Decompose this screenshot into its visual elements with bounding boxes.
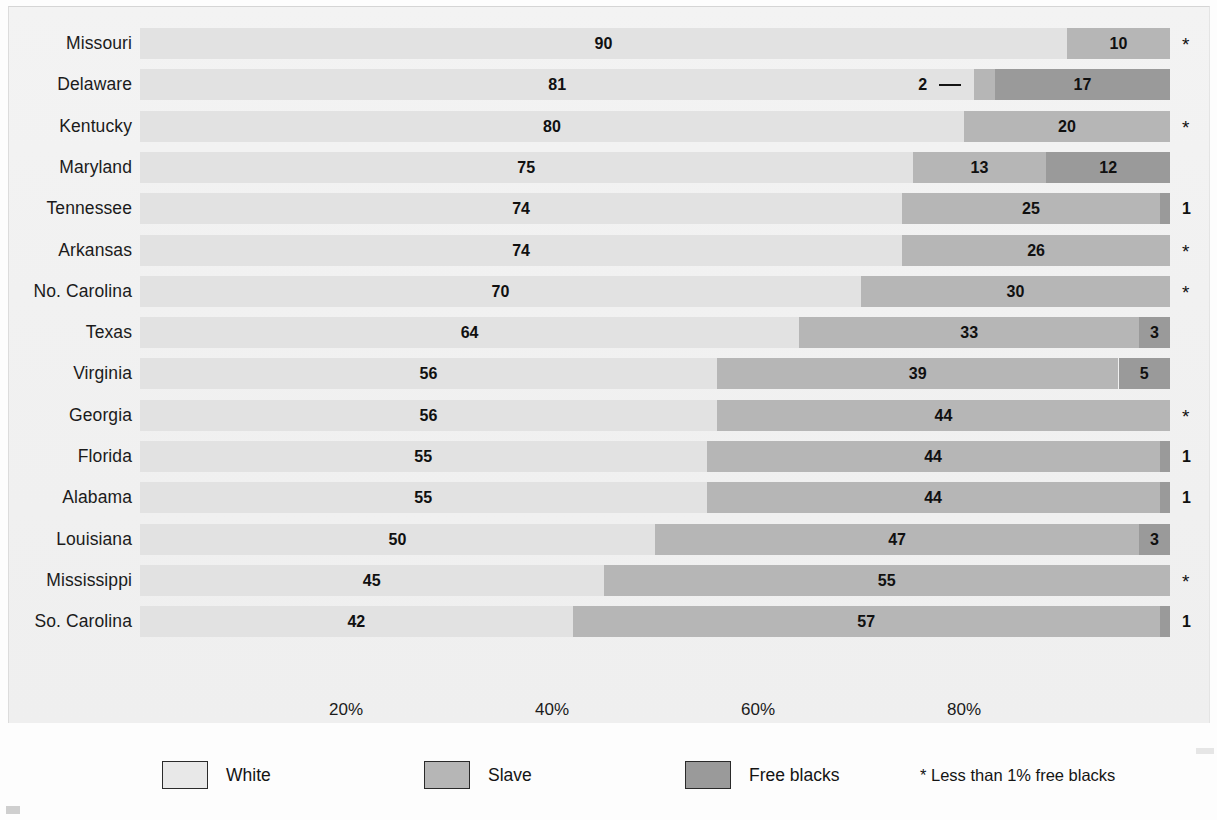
x-tick-label: 40% <box>535 700 569 720</box>
segment-value-slave: 30 <box>861 276 1170 307</box>
x-tick-label: 60% <box>741 700 775 720</box>
row-label-mississippi: Mississippi <box>46 565 132 596</box>
segment-value-white: 70 <box>140 276 861 307</box>
segment-value-slave: 57 <box>573 606 1160 637</box>
stacked-bar-chart: Missouri9010*Delaware81217Kentucky8020*M… <box>0 0 1217 820</box>
segment-value-free: 5 <box>1119 358 1171 389</box>
legend-item-white[interactable]: White <box>162 758 271 792</box>
footnote-asterisk: * <box>1182 111 1189 142</box>
chart-legend: WhiteSlaveFree blacks* Less than 1% free… <box>0 758 1217 804</box>
chart-row: So. Carolina42571 <box>0 606 1217 637</box>
footnote-asterisk: * <box>1182 235 1189 266</box>
chart-row: Texas64333 <box>0 317 1217 348</box>
chart-page: Missouri9010*Delaware81217Kentucky8020*M… <box>0 0 1217 820</box>
legend-item-slave[interactable]: Slave <box>424 758 532 792</box>
chart-row: Louisiana50473 <box>0 524 1217 555</box>
row-label-virginia: Virginia <box>73 358 132 389</box>
stacked-bar: 4257 <box>140 606 1170 637</box>
x-tick-label: 80% <box>947 700 981 720</box>
segment-value-white: 74 <box>140 193 902 224</box>
segment-value-free-outside: 1 <box>1182 193 1191 224</box>
row-label-kentucky: Kentucky <box>59 111 132 142</box>
legend-swatch-icon <box>685 761 731 789</box>
legend-swatch-icon <box>424 761 470 789</box>
stacked-bar: 5644 <box>140 400 1170 431</box>
row-label-missouri: Missouri <box>66 28 132 59</box>
chart-row: Mississippi4555* <box>0 565 1217 596</box>
footnote-asterisk: * <box>1182 276 1189 307</box>
segment-value-slave: 39 <box>717 358 1119 389</box>
segment-value-white: 80 <box>140 111 964 142</box>
stacked-bar: 5544 <box>140 441 1170 472</box>
stacked-bar: 5544 <box>140 482 1170 513</box>
row-label-alabama: Alabama <box>62 482 132 513</box>
x-axis: 20%40%60%80% <box>0 700 1217 730</box>
segment-value-white: 55 <box>140 441 707 472</box>
segment-free-blacks <box>1160 606 1170 637</box>
stacked-bar: 7030 <box>140 276 1170 307</box>
segment-value-free-outside: 1 <box>1182 482 1191 513</box>
row-label-texas: Texas <box>86 317 132 348</box>
stacked-bar: 751312 <box>140 152 1170 183</box>
footnote-asterisk: * <box>1182 565 1189 596</box>
segment-free-blacks <box>1160 482 1170 513</box>
segment-value-free: 3 <box>1139 317 1170 348</box>
segment-value-free-outside: 1 <box>1182 606 1191 637</box>
segment-value-slave: 10 <box>1067 28 1170 59</box>
stacked-bar: 64333 <box>140 317 1170 348</box>
leader-line <box>939 84 961 86</box>
row-label-tennessee: Tennessee <box>46 193 132 224</box>
row-label-delaware: Delaware <box>57 69 132 100</box>
segment-value-white: 55 <box>140 482 707 513</box>
chart-row: Delaware81217 <box>0 69 1217 100</box>
segment-value-slave: 25 <box>902 193 1160 224</box>
segment-value-slave: 47 <box>655 524 1139 555</box>
stacked-bar: 56395 <box>140 358 1170 389</box>
segment-value-slave: 26 <box>902 235 1170 266</box>
row-label-florida: Florida <box>78 441 132 472</box>
x-tick-label: 20% <box>329 700 363 720</box>
legend-footnote: * Less than 1% free blacks <box>920 758 1115 792</box>
stacked-bar: 7426 <box>140 235 1170 266</box>
segment-value-slave: 44 <box>707 482 1160 513</box>
segment-value-free: 3 <box>1139 524 1170 555</box>
scan-artifact <box>1196 748 1214 754</box>
chart-row: Missouri9010* <box>0 28 1217 59</box>
stacked-bar: 81217 <box>140 69 1170 100</box>
segment-value-slave: 33 <box>799 317 1139 348</box>
chart-row: Kentucky8020* <box>0 111 1217 142</box>
segment-value-white: 50 <box>140 524 655 555</box>
stacked-bar: 7425 <box>140 193 1170 224</box>
row-label-georgia: Georgia <box>69 400 132 431</box>
segment-free-blacks <box>1160 441 1170 472</box>
legend-item-free-blacks[interactable]: Free blacks <box>685 758 839 792</box>
chart-row: Tennessee74251 <box>0 193 1217 224</box>
segment-value-free: 17 <box>995 69 1170 100</box>
segment-value-white: 45 <box>140 565 604 596</box>
footnote-asterisk: * <box>1182 400 1189 431</box>
legend-label: Free blacks <box>749 765 839 786</box>
row-label-so-carolina: So. Carolina <box>34 606 132 637</box>
row-label-no-carolina: No. Carolina <box>34 276 132 307</box>
row-label-arkansas: Arkansas <box>58 235 132 266</box>
chart-row: Maryland751312 <box>0 152 1217 183</box>
segment-value-white: 56 <box>140 358 717 389</box>
segment-value-slave: 44 <box>717 400 1170 431</box>
chart-row: No. Carolina7030* <box>0 276 1217 307</box>
segment-value-white: 74 <box>140 235 902 266</box>
stacked-bar: 4555 <box>140 565 1170 596</box>
segment-value-white: 56 <box>140 400 717 431</box>
chart-row: Georgia5644* <box>0 400 1217 431</box>
segment-value-slave: 2 <box>918 69 927 100</box>
chart-row: Virginia56395 <box>0 358 1217 389</box>
segment-value-slave: 20 <box>964 111 1170 142</box>
stacked-bar: 50473 <box>140 524 1170 555</box>
stacked-bar: 8020 <box>140 111 1170 142</box>
segment-value-white: 42 <box>140 606 573 637</box>
row-label-louisiana: Louisiana <box>56 524 132 555</box>
segment-value-white: 90 <box>140 28 1067 59</box>
chart-row: Alabama55441 <box>0 482 1217 513</box>
segment-value-slave: 44 <box>707 441 1160 472</box>
segment-value-slave: 55 <box>604 565 1171 596</box>
segment-value-white: 75 <box>140 152 913 183</box>
